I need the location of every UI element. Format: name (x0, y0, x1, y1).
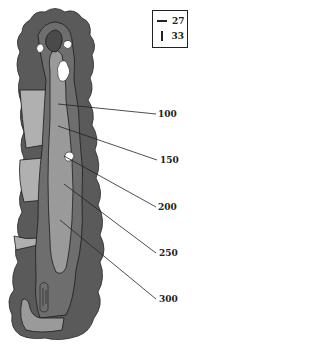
yardage-label-200: 200 (158, 202, 177, 212)
legend-value: 33 (172, 31, 185, 41)
legend-item-vertical: 33 (157, 31, 184, 41)
vertical-line-icon (161, 31, 163, 41)
yardage-label-150: 150 (160, 155, 179, 165)
horizontal-line-icon (157, 20, 167, 22)
yardage-label-100: 100 (158, 109, 177, 119)
legend-box: 27 33 (152, 10, 188, 48)
yardage-label-250: 250 (159, 248, 178, 258)
legend-item-horizontal: 27 (157, 16, 185, 26)
legend-value: 27 (172, 16, 185, 26)
yardage-label-300: 300 (159, 294, 178, 304)
